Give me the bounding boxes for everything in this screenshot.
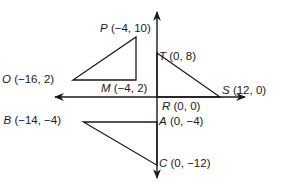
label-R: R (0, 0)	[162, 101, 200, 113]
label-M: M (−4, 2)	[101, 83, 147, 95]
label-B: B (−14, −4)	[4, 115, 62, 127]
label-S: S (12, 0)	[222, 85, 266, 97]
label-P: P (−4, 10)	[100, 23, 151, 35]
label-O: O (−16, 2)	[2, 74, 54, 86]
triangle-BAC	[84, 122, 158, 165]
label-A: A (0, −4)	[159, 116, 203, 128]
triangle-PMO	[73, 37, 136, 80]
label-C: C (0, −12)	[159, 158, 210, 170]
label-T: T (0, 8)	[159, 51, 196, 63]
